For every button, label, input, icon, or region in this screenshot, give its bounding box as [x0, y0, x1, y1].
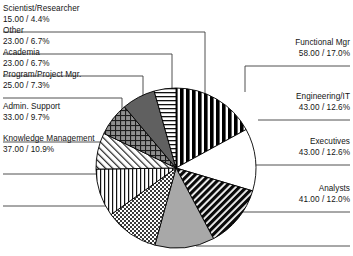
slice-label-value: 33.00 / 9.7% [3, 112, 60, 123]
pie-slices [96, 88, 256, 248]
slice-label-name: Program/Project Mgr. [3, 69, 81, 80]
slice-label-scientist-researcher: Scientist/Researcher 15.00 / 4.4% [3, 3, 80, 25]
slice-label-program-project-mgr: Program/Project Mgr. 25.00 / 7.3% [3, 69, 81, 91]
slice-label-value: 58.00 / 17.0% [295, 48, 350, 59]
slice-label-value: 23.00 / 6.7% [3, 36, 50, 47]
slice-label-admin-support: Admin. Support 33.00 / 9.7% [3, 101, 60, 123]
slice-label-academia: Academia 23.00 / 6.7% [3, 47, 50, 69]
slice-label-name: Engineering/IT [296, 91, 350, 102]
slice-label-name: Knowledge Management [3, 133, 95, 144]
slice-label-functional-mgr: Functional Mgr 58.00 / 17.0% [295, 37, 350, 59]
slice-label-name: Admin. Support [3, 101, 60, 112]
slice-label-value: 15.00 / 4.4% [3, 14, 80, 25]
slice-label-value: 37.00 / 10.9% [3, 144, 95, 155]
leader-line-functional-mgr [245, 66, 350, 92]
slice-label-value: 43.00 / 12.6% [299, 147, 350, 158]
slice-label-name: Analysts [299, 183, 350, 194]
slice-label-value: 23.00 / 6.7% [3, 58, 50, 69]
slice-label-name: Scientist/Researcher [3, 3, 80, 14]
slice-label-engineering-it: Engineering/IT 43.00 / 12.6% [296, 91, 350, 113]
slice-label-executives: Executives 43.00 / 12.6% [299, 136, 350, 158]
slice-label-value: 25.00 / 7.3% [3, 80, 81, 91]
slice-label-other: Other 23.00 / 6.7% [3, 25, 50, 47]
slice-label-value: 41.00 / 12.0% [299, 194, 350, 205]
pie-chart: Scientist/Researcher 15.00 / 4.4% Other … [0, 0, 353, 256]
slice-label-name: Academia [3, 47, 50, 58]
slice-label-name: Executives [299, 136, 350, 147]
slice-label-analysts: Analysts 41.00 / 12.0% [299, 183, 350, 205]
slice-label-name: Other [3, 25, 50, 36]
slice-label-knowledge-management: Knowledge Management 37.00 / 10.9% [3, 133, 95, 155]
slice-label-name: Functional Mgr [295, 37, 350, 48]
slice-label-value: 43.00 / 12.6% [296, 102, 350, 113]
